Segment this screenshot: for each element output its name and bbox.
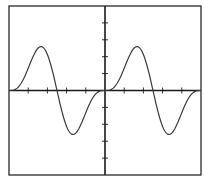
waveform-chart <box>0 0 204 182</box>
